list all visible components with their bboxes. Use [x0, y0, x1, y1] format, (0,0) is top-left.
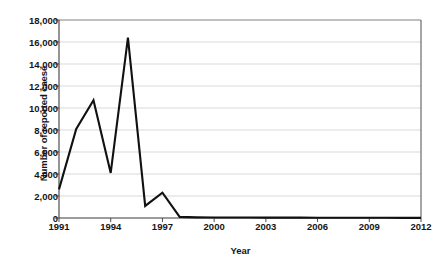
x-tick-label: 2012 — [391, 221, 439, 232]
line-chart-figure: Number of reported caese 02,0004,0006,00… — [0, 0, 439, 266]
x-axis-tick-labels: 19911994199720002003200620092012 — [0, 0, 439, 266]
x-axis-label: Year — [59, 245, 422, 256]
